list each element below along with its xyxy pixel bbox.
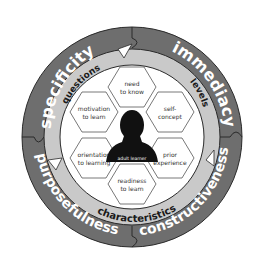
svg-text:need: need (125, 80, 140, 87)
svg-text:motivation: motivation (78, 105, 110, 112)
svg-text:to learn: to learn (82, 113, 105, 120)
svg-text:prior: prior (163, 151, 178, 159)
svg-text:readiness: readiness (118, 177, 147, 184)
svg-text:orientation: orientation (78, 151, 111, 158)
svg-text:experience: experience (153, 159, 187, 167)
adult-learning-diagram: specificity immediacy purposefulness con… (0, 0, 264, 275)
svg-text:to learn: to learn (120, 185, 143, 192)
svg-text:to know: to know (120, 88, 144, 95)
svg-text:self-: self- (164, 105, 176, 112)
svg-text:to learning: to learning (78, 159, 111, 167)
svg-text:concept: concept (158, 113, 183, 121)
center-label: adult learner (118, 156, 147, 161)
